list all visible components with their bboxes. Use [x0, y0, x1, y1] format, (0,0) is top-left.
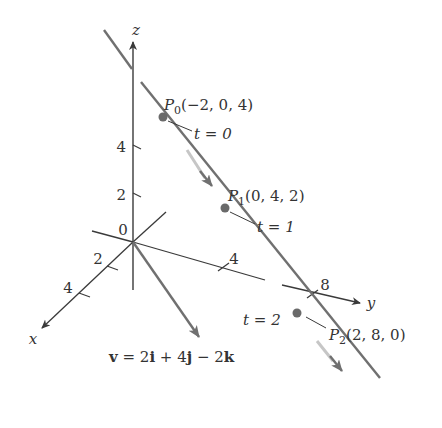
y-axis-label: y — [366, 294, 376, 312]
x-tick-4 — [79, 293, 90, 297]
z-tick-label-4: 4 — [116, 138, 126, 156]
direction-arrow-1 — [200, 171, 212, 186]
parametric-line-diagram: z 4 2 x 2 4 y 4 8 0 P — [0, 0, 442, 428]
point-p2: P2(2, 8, 0) t = 2 — [243, 309, 406, 348]
z-tick-4 — [133, 145, 141, 149]
direction-arrow-2 — [330, 356, 342, 371]
p1-label: P1(0, 4, 2) — [227, 187, 305, 208]
p0-label: P0(−2, 0, 4) — [163, 96, 253, 117]
y-tick-label-4: 4 — [229, 250, 239, 268]
x-tick-2 — [107, 266, 118, 270]
z-tick-label-2: 2 — [116, 186, 126, 204]
x-tick-label-4: 4 — [63, 279, 73, 297]
p2-param-label: t = 2 — [243, 311, 281, 329]
p1-param-label: t = 1 — [257, 218, 295, 236]
z-axis-label: z — [131, 21, 140, 39]
point-p1: P1(0, 4, 2) t = 1 — [221, 187, 305, 236]
p0-param-label: t = 0 — [194, 125, 232, 143]
vector-v-arrow — [133, 242, 199, 337]
z-tick-2 — [133, 193, 141, 197]
origin-label: 0 — [118, 221, 128, 239]
vector-equation: v = 2i + 4j − 2k — [108, 348, 235, 366]
x-tick-label-2: 2 — [93, 250, 103, 268]
y-tick-label-8: 8 — [320, 276, 330, 294]
x-axis-label: x — [29, 330, 38, 348]
